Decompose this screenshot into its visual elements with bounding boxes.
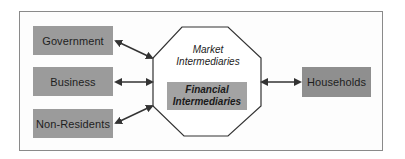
arrow-government [116,41,152,58]
government-box: Government [33,26,113,55]
non-residents-label: Non-Residents [36,118,110,130]
arrow-non-residents [116,106,152,123]
households-label: Households [307,76,366,88]
market-intermediaries-label: Market Intermediaries [170,44,246,68]
financial-intermediaries-box: Financial Intermediaries [167,82,247,110]
market-intermediaries-line2: Intermediaries [170,56,246,68]
business-label: Business [50,76,95,88]
non-residents-box: Non-Residents [33,109,113,138]
government-label: Government [42,35,104,47]
financial-intermediaries-line1: Financial [185,84,228,96]
business-box: Business [33,67,113,96]
market-intermediaries-line1: Market [170,44,246,56]
financial-intermediaries-line2: Intermediaries [173,96,241,108]
households-box: Households [302,67,371,97]
